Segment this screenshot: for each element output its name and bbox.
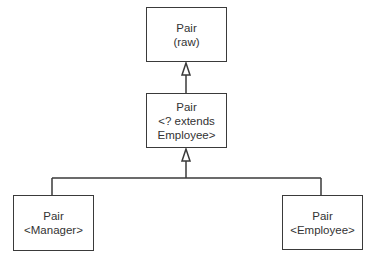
class-type-arg: <Manager> bbox=[24, 223, 83, 237]
class-name: Pair bbox=[43, 209, 63, 223]
class-type-arg: <Employee> bbox=[290, 223, 355, 237]
class-name: Pair bbox=[176, 21, 196, 35]
inheritance-arrow-icon bbox=[182, 149, 190, 161]
class-box-pair-manager: Pair <Manager> bbox=[13, 195, 94, 251]
class-box-pair-employee: Pair <Employee> bbox=[282, 195, 363, 250]
class-type-arg: <? extends bbox=[158, 114, 215, 128]
inheritance-arrow-icon bbox=[182, 63, 190, 75]
class-box-pair-wildcard: Pair <? extends Employee> bbox=[146, 93, 227, 148]
class-name: Pair bbox=[176, 100, 196, 114]
class-name: Pair bbox=[312, 209, 332, 223]
class-box-pair-raw: Pair (raw) bbox=[146, 7, 227, 62]
class-type-arg: Employee> bbox=[158, 128, 216, 142]
class-type-arg: (raw) bbox=[173, 35, 199, 49]
class-diagram: Pair (raw) Pair <? extends Employee> Pai… bbox=[0, 0, 372, 258]
